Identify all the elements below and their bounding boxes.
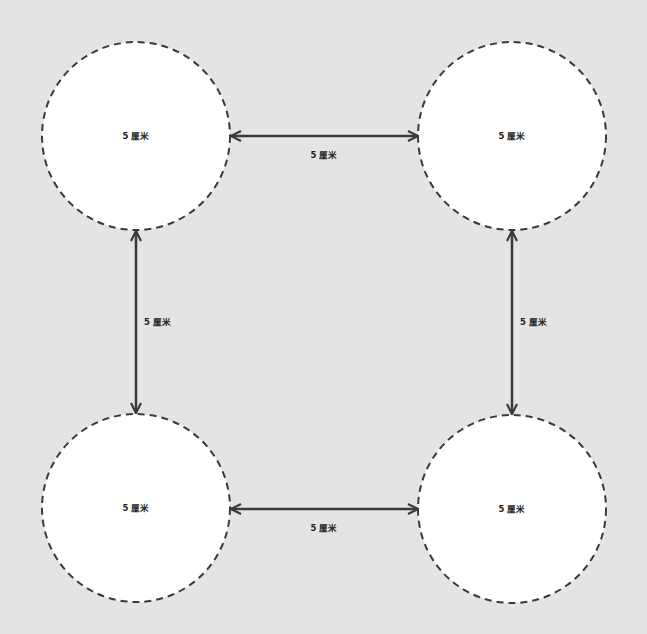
spacing-arrow-bottom: 5 厘米: [231, 509, 418, 533]
spacing-arrow-right: 5 厘米: [512, 231, 547, 414]
spacing-diagram: 5 厘米 5 厘米 5 厘米 5 厘米 5 厘米 5 厘米 5 厘米 5 厘米: [0, 0, 647, 634]
spacing-arrow-top: 5 厘米: [231, 136, 418, 160]
circle-label: 5 厘米: [123, 503, 150, 513]
circle-bottom-left: 5 厘米: [42, 414, 230, 602]
circle-label: 5 厘米: [499, 504, 526, 514]
circle-label: 5 厘米: [123, 131, 150, 141]
spacing-label: 5 厘米: [311, 523, 338, 533]
circle-label: 5 厘米: [499, 131, 526, 141]
spacing-label: 5 厘米: [311, 150, 338, 160]
spacing-arrow-left: 5 厘米: [136, 231, 171, 413]
spacing-label: 5 厘米: [144, 317, 171, 327]
spacing-label: 5 厘米: [520, 317, 547, 327]
circle-bottom-right: 5 厘米: [418, 415, 606, 603]
circle-top-left: 5 厘米: [42, 42, 230, 230]
circle-top-right: 5 厘米: [418, 42, 606, 230]
